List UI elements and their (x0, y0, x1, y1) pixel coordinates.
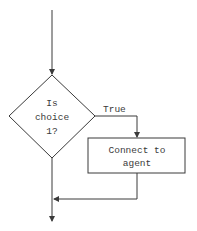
process-line-2: agent (123, 158, 152, 169)
decision-line-3: 1? (46, 126, 57, 137)
true-branch-connector (95, 116, 137, 137)
decision-line-2: choice (35, 112, 70, 123)
decision-line-1: Is (46, 98, 57, 109)
process-line-1: Connect to (108, 145, 165, 156)
true-label: True (103, 104, 126, 115)
flowchart: Is choice 1? True Connect to agent (0, 0, 197, 231)
return-connector (54, 173, 137, 199)
